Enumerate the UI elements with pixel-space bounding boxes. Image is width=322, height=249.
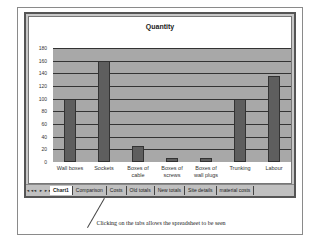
y-tick-label: 20: [31, 146, 47, 152]
tab-chart1[interactable]: Chart1: [50, 186, 73, 195]
bar-labour: [268, 76, 280, 162]
bar-boxes-of-cable: [132, 146, 144, 162]
y-tick-label: 140: [31, 70, 47, 76]
y-tick-label: 0: [31, 159, 47, 165]
gridline: [53, 61, 291, 62]
x-axis-label: Boxes ofcable: [121, 165, 155, 179]
x-axis-label: Wall boxes: [53, 165, 87, 172]
x-axis-label: Boxes ofscrews: [155, 165, 189, 179]
sheet-tab-bar: ◄◄ ◄ ► ►► Chart1 Comparison Costs Old to…: [26, 184, 294, 196]
y-tick-label: 40: [31, 134, 47, 140]
tab-old-totals[interactable]: Old totals: [127, 186, 155, 195]
x-axis-label: Boxes ofwall plugs: [189, 165, 223, 179]
tab-comparison[interactable]: Comparison: [73, 186, 107, 195]
tab-site-details[interactable]: Site details: [185, 186, 216, 195]
tab-new-totals[interactable]: New totals: [155, 186, 185, 195]
y-tick-label: 100: [31, 96, 47, 102]
y-tick-label: 160: [31, 58, 47, 64]
gridline: [53, 149, 291, 150]
tab-costs[interactable]: Costs: [107, 186, 127, 195]
y-tick-label: 180: [31, 45, 47, 51]
bar-boxes-of-wall-plugs: [200, 158, 212, 162]
y-tick-label: 80: [31, 108, 47, 114]
gridline: [53, 99, 291, 100]
gridline: [53, 86, 291, 87]
excel-chart-window: Quantity 020406080100120140160180Wall bo…: [24, 12, 296, 198]
y-tick-label: 60: [31, 121, 47, 127]
x-axis-label: Labour: [257, 165, 291, 172]
bar-wall-boxes: [64, 99, 76, 162]
gridline: [53, 48, 291, 49]
bar-sockets: [98, 61, 110, 162]
plot-area: 020406080100120140160180Wall boxesSocket…: [53, 48, 291, 162]
x-axis-label: Trunking: [223, 165, 257, 172]
y-tick-label: 120: [31, 83, 47, 89]
gridline: [53, 73, 291, 74]
chart-title: Quantity: [29, 23, 291, 30]
bar-trunking: [234, 99, 246, 162]
gridline: [53, 137, 291, 138]
gridline: [53, 124, 291, 125]
gridline: [53, 111, 291, 112]
x-axis-label: Sockets: [87, 165, 121, 172]
bar-boxes-of-screws: [166, 158, 178, 162]
tab-material-costs[interactable]: material costs: [217, 186, 255, 195]
caption-text: Clicking on the tabs allows the spreadsh…: [0, 220, 322, 226]
chart-sheet: Quantity 020406080100120140160180Wall bo…: [28, 16, 292, 184]
